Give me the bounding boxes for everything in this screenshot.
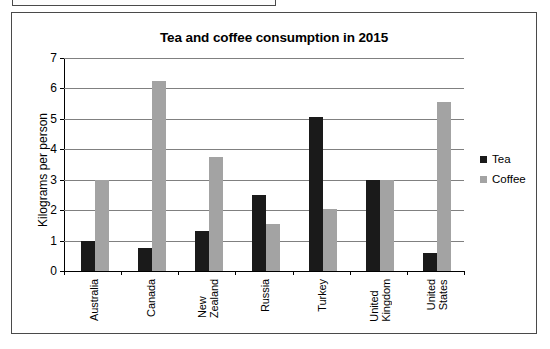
x-tick-mark bbox=[178, 271, 179, 275]
bar-tea bbox=[423, 253, 437, 271]
y-tick-mark-2 bbox=[60, 210, 64, 211]
legend-label: Coffee bbox=[492, 173, 526, 185]
y-tick-label-1: 1 bbox=[50, 235, 57, 247]
bar-group bbox=[309, 58, 337, 271]
y-tick-label-0: 0 bbox=[50, 265, 57, 277]
bar-coffee bbox=[152, 81, 166, 271]
y-axis-line bbox=[64, 58, 65, 271]
x-axis-category-label: Canada bbox=[146, 279, 158, 317]
x-tick-mark bbox=[235, 271, 236, 275]
bar-tea bbox=[252, 195, 266, 271]
y-tick-label-4: 4 bbox=[50, 143, 57, 155]
y-tick-mark-4 bbox=[60, 149, 64, 150]
y-tick-label-2: 2 bbox=[50, 204, 57, 216]
y-tick-label-5: 5 bbox=[50, 113, 57, 125]
bar-group bbox=[423, 58, 451, 271]
x-tick-mark bbox=[121, 271, 122, 275]
bar-group bbox=[366, 58, 394, 271]
x-axis-category-label: New Zealand bbox=[197, 279, 220, 318]
bar-coffee bbox=[380, 180, 394, 271]
bar-tea bbox=[81, 241, 95, 271]
legend-swatch-tea bbox=[480, 156, 487, 163]
bar-coffee bbox=[323, 209, 337, 271]
bar-group bbox=[81, 58, 109, 271]
x-axis-category-label: Turkey bbox=[317, 279, 329, 312]
bar-tea bbox=[366, 180, 380, 271]
bar-coffee bbox=[95, 180, 109, 271]
legend-swatch-coffee bbox=[480, 176, 487, 183]
x-tick-mark bbox=[350, 271, 351, 275]
partial-box-above bbox=[12, 0, 276, 6]
plot-area: 01234567 AustraliaCanadaNew ZealandRussi… bbox=[64, 58, 464, 271]
x-axis-category-label: Russia bbox=[260, 279, 272, 312]
x-axis-category-label: United States bbox=[426, 279, 449, 310]
x-tick-mark bbox=[464, 271, 465, 275]
chart-legend: TeaCoffee bbox=[480, 153, 526, 193]
y-tick-mark-5 bbox=[60, 119, 64, 120]
x-tick-mark bbox=[64, 271, 65, 275]
y-tick-mark-6 bbox=[60, 88, 64, 89]
y-tick-label-3: 3 bbox=[50, 174, 57, 186]
y-tick-mark-7 bbox=[60, 58, 64, 59]
y-tick-mark-3 bbox=[60, 180, 64, 181]
y-tick-label-7: 7 bbox=[50, 52, 57, 64]
legend-label: Tea bbox=[492, 153, 511, 165]
x-axis-category-label: Australia bbox=[89, 279, 101, 321]
y-tick-label-6: 6 bbox=[50, 82, 57, 94]
y-axis-title: Kilograms per person bbox=[36, 90, 50, 250]
legend-item-coffee: Coffee bbox=[480, 173, 526, 185]
gridline-0 bbox=[64, 271, 464, 272]
x-tick-mark bbox=[293, 271, 294, 275]
bar-tea bbox=[195, 231, 209, 271]
chart-figure-frame: Tea and coffee consumption in 2015 Kilog… bbox=[11, 12, 537, 334]
bar-tea bbox=[309, 117, 323, 271]
bar-group bbox=[252, 58, 280, 271]
bar-tea bbox=[138, 248, 152, 271]
bar-coffee bbox=[209, 157, 223, 271]
bar-group bbox=[195, 58, 223, 271]
legend-item-tea: Tea bbox=[480, 153, 526, 165]
y-tick-mark-1 bbox=[60, 241, 64, 242]
bar-coffee bbox=[266, 224, 280, 271]
chart-title: Tea and coffee consumption in 2015 bbox=[12, 30, 536, 45]
bar-coffee bbox=[437, 102, 451, 271]
bar-group bbox=[138, 58, 166, 271]
x-axis-category-label: United Kingdom bbox=[369, 279, 392, 322]
x-tick-mark bbox=[407, 271, 408, 275]
